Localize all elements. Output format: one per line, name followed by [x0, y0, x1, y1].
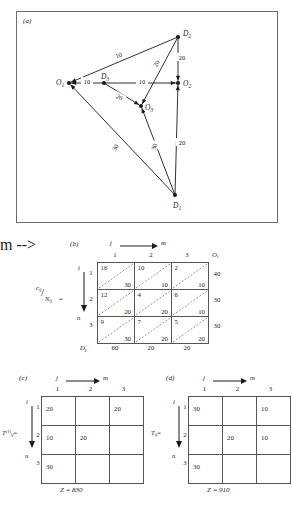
table-c-cell-2-3 — [110, 426, 144, 455]
table-b-panel: (b) m --> j m 1 2 3 Oi i n 1 2 3 cij / N… — [0, 236, 293, 366]
table-b-cell-1-3: 210 — [172, 263, 209, 290]
edge-cost-D2-O3: 20 — [150, 56, 163, 70]
cell-shipment-value: 20 — [46, 405, 53, 412]
table-c-cell-3-1: 30 — [42, 455, 76, 484]
cell-cost-value: 5 — [175, 318, 178, 325]
table-b-row: 930720520 — [98, 317, 209, 344]
cell-shipment-value: 20 — [80, 434, 87, 441]
edge-cost-D1-O1: 30 — [109, 140, 122, 154]
table-c-col-axis-from: j — [56, 374, 58, 381]
table-d-cell-1-2 — [223, 397, 257, 426]
table-c-col-header-3: 3 — [107, 385, 140, 392]
cell-cost-value: 7 — [138, 318, 141, 325]
cell-cost-value: 12 — [101, 291, 108, 298]
table-d-row: 2010 — [189, 426, 291, 455]
table-c-row-axis-to: n — [25, 452, 28, 459]
table-d-objective: Z = 910 — [207, 486, 230, 494]
svg-text:20: 20 — [179, 54, 186, 61]
table-b-supply-header: Oi — [212, 251, 218, 259]
node-label-O1: O1 — [56, 78, 64, 88]
table-d-row: 3010 — [189, 397, 291, 426]
table-d-col-header-3: 3 — [254, 385, 287, 392]
table-b-matrix: 163010102101220420610930720520 — [97, 262, 209, 344]
table-b-supply-header-sub: i — [217, 254, 218, 259]
cell-cost-value: 6 — [175, 291, 178, 298]
table-d-row-axis-to: n — [172, 452, 175, 459]
table-d-cell-2-1 — [189, 426, 223, 455]
table-b-row: 1220420610 — [98, 290, 209, 317]
table-b-supply-1: 40 — [208, 270, 226, 277]
table-c-objective: Z = 830 — [60, 486, 83, 494]
cell-capacity-value: 30 — [124, 335, 131, 342]
table-c-cell-2-1: 10 — [42, 426, 76, 455]
table-d-cell-3-1: 30 — [189, 455, 223, 484]
table-d-row-axis-arrow-icon — [175, 406, 183, 448]
table-b-col-axis-from: j — [110, 239, 112, 246]
node-label-D3: D3 — [100, 72, 109, 82]
node-dot-icon — [176, 81, 180, 85]
cell-capacity-value: 20 — [161, 308, 168, 315]
table-d-col-axis-from: j — [203, 374, 205, 381]
table-d-left-label: Tij= — [151, 429, 161, 437]
table-d-col-axis-arrow-icon — [213, 377, 247, 385]
table-b-row: 16301010210 — [98, 263, 209, 290]
table-b-row-axis-from: i — [78, 264, 80, 271]
table-b-col-header-3: 3 — [169, 251, 205, 258]
table-b-row-axis-to: n — [77, 314, 80, 321]
node-label-O3: O3 — [145, 103, 153, 113]
table-c-row: 1020 — [42, 426, 144, 455]
node-dot-icon — [139, 104, 143, 108]
table-c-cell-1-2 — [76, 397, 110, 426]
table-b-demand-2: 20 — [133, 344, 169, 351]
table-c-col-axis-to: m — [103, 374, 108, 381]
table-c-cell-3-2 — [76, 455, 110, 484]
cell-cost-value: 9 — [101, 318, 104, 325]
table-d-panel: (d) j m 1 2 3 i n 1 2 3 Tij= 3010201030 … — [148, 372, 293, 502]
edge-cost-D3-O1: 10 — [81, 77, 93, 85]
cell-shipment-value: 20 — [114, 405, 121, 412]
table-b-left-label-slash: / — [41, 286, 44, 298]
table-b-left-label-denominator: Nij — [45, 295, 52, 303]
table-c-row-axis-from: i — [26, 398, 28, 405]
table-b-col-axis-arrow-icon — [120, 242, 158, 250]
cell-shipment-value: 30 — [193, 405, 200, 412]
table-d-cell-3-2 — [223, 455, 257, 484]
table-b-col-header-2: 2 — [133, 251, 169, 258]
panel-d-label: (d) — [166, 374, 174, 382]
cell-capacity-value: 30 — [124, 281, 131, 288]
table-b-cell-1-2: 1010 — [135, 263, 172, 290]
panel-a-label: (a) — [23, 17, 31, 25]
table-d-matrix: 3010201030 — [188, 396, 291, 484]
table-d-col-header-1: 1 — [188, 385, 221, 392]
cell-capacity-value: 10 — [198, 308, 205, 315]
svg-text:20: 20 — [179, 139, 186, 146]
table-c-col-header-1: 1 — [41, 385, 74, 392]
table-b-cell-2-3: 610 — [172, 290, 209, 317]
table-c-col-axis-arrow-icon — [66, 377, 100, 385]
network-node-D2: D2 — [176, 29, 192, 39]
table-b-cell-3-1: 930 — [98, 317, 135, 344]
table-b-cell-3-3: 520 — [172, 317, 209, 344]
table-d-cell-2-3: 10 — [257, 426, 291, 455]
table-d-col-axis-to: m — [250, 374, 255, 381]
table-d-cell-1-1: 30 — [189, 397, 223, 426]
node-dot-icon — [173, 193, 177, 197]
cell-capacity-value: 20 — [161, 335, 168, 342]
network-graph: 101010202020203030O1D3O3O2D2D1 — [17, 12, 277, 222]
table-c-row-axis-arrow-icon — [28, 406, 36, 448]
cell-cost-value: 2 — [175, 264, 178, 271]
table-b-left-label-equals: = — [59, 295, 63, 302]
cell-cost-value: 10 — [138, 264, 145, 271]
table-c-row: 2020 — [42, 397, 144, 426]
network-node-O3: O3 — [139, 103, 154, 113]
table-b-demand-3: 20 — [169, 344, 205, 351]
network-diagram-panel: (a) 101010202020203030O1D3O3O2D2D1 — [16, 11, 278, 223]
table-b-row-axis-arrow-icon — [80, 272, 88, 312]
edge-cost-D1-O2: 20 — [176, 138, 188, 146]
cell-capacity-value: 20 — [124, 308, 131, 315]
table-b-row-header-1: 1 — [86, 269, 96, 276]
cell-shipment-value: 10 — [46, 434, 53, 441]
cell-cost-value: 16 — [101, 264, 108, 271]
network-edge-D2-O1 — [71, 37, 178, 82]
cell-shipment-value: 20 — [227, 434, 234, 441]
